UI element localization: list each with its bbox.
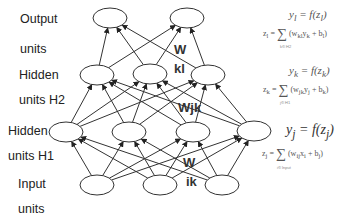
input-node bbox=[80, 175, 114, 195]
edge-h1-to-h2 bbox=[77, 82, 139, 125]
layer-label-input-1: Input bbox=[18, 177, 46, 191]
h2-node bbox=[191, 65, 225, 85]
edge-input-to-h1 bbox=[228, 140, 249, 175]
weight-label-w-ik-a: W bbox=[183, 155, 195, 170]
weight-label-w-kl-a: W bbox=[174, 42, 186, 57]
equation-h2-sum: zk = ∑ (wjkyj + bk) bbox=[263, 82, 328, 98]
edge-h2-to-output bbox=[117, 27, 144, 65]
h1-node bbox=[112, 122, 146, 142]
equation-output-activation: yl = f(zl) bbox=[289, 8, 327, 23]
h2-node bbox=[80, 65, 114, 85]
h1-node bbox=[237, 121, 271, 141]
weight-label-w-kl-b: kl bbox=[174, 61, 185, 76]
input-node bbox=[205, 175, 239, 195]
edge-h2-to-output bbox=[191, 28, 205, 65]
edge-input-to-h1 bbox=[72, 141, 92, 175]
equation-h1-activation: yj = f(zj) bbox=[286, 122, 334, 141]
h1-node bbox=[176, 122, 210, 142]
layer-label-h2-1: Hidden bbox=[19, 68, 59, 82]
input-node bbox=[143, 175, 177, 195]
edge-h1-to-h2 bbox=[215, 84, 246, 122]
h2-node bbox=[133, 64, 167, 84]
sigma-icon: ∑ bbox=[277, 26, 287, 41]
layer-label-h1-1: Hidden bbox=[8, 124, 48, 138]
sigma-icon: ∑ bbox=[278, 82, 288, 97]
sum-range-h2: j∈ H1 bbox=[280, 100, 290, 105]
layer-label-input-2: units bbox=[18, 202, 44, 216]
sigma-icon: ∑ bbox=[276, 146, 286, 161]
output-node bbox=[93, 8, 127, 28]
layer-label-h1-2: units H1 bbox=[8, 149, 54, 163]
weight-label-w-ik-b: ik bbox=[186, 174, 197, 189]
output-node bbox=[170, 8, 204, 28]
layer-label-h2-2: units H2 bbox=[19, 93, 65, 107]
edge-h2-to-output bbox=[109, 25, 176, 67]
layer-label-output-1: Output bbox=[20, 12, 58, 26]
equation-h2-activation: yk = f(zk) bbox=[289, 64, 330, 79]
h1-node bbox=[49, 122, 83, 142]
edge-input-to-h1 bbox=[78, 139, 147, 178]
equation-output-sum: zl = ∑ (wklyk + bl) bbox=[263, 26, 327, 42]
edge-h1-to-h2 bbox=[102, 84, 123, 122]
edge-h2-to-output bbox=[99, 28, 107, 65]
connections bbox=[71, 25, 248, 180]
sum-range-h1: i∈ Input bbox=[277, 165, 291, 170]
layer-label-output-2: units bbox=[20, 42, 46, 56]
edge-h1-to-h2 bbox=[112, 80, 240, 126]
weight-label-w-jk: Wjk bbox=[178, 100, 201, 115]
sum-range-output: k∈ H2 bbox=[280, 44, 291, 49]
equation-h1-sum: zj = ∑ (wijxi + bj) bbox=[262, 146, 323, 162]
